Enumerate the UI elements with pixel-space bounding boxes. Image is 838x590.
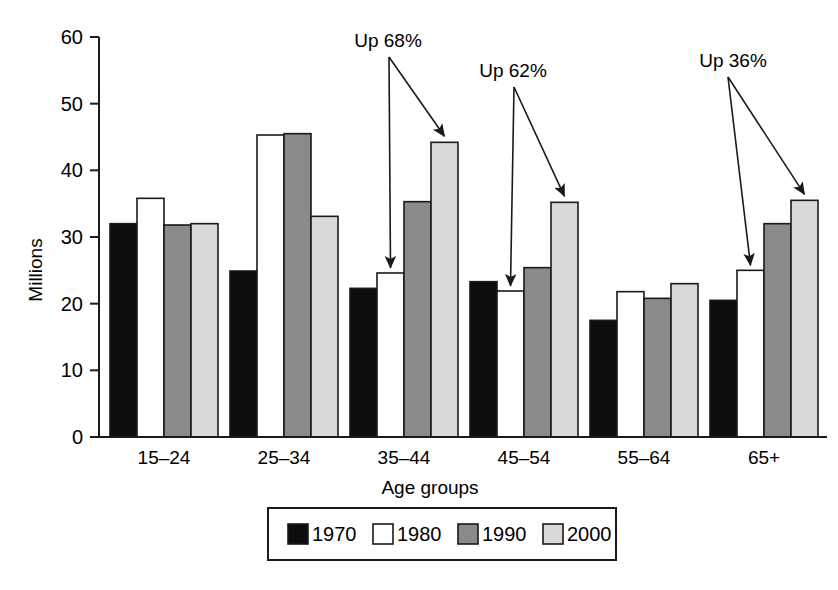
x-category-label-4: 45–54 [498, 447, 551, 468]
y-tick-label-10: 10 [61, 359, 83, 381]
bar-1990-25–34 [284, 134, 311, 437]
x-category-label-3: 35–44 [378, 447, 431, 468]
bar-2000-55–64 [671, 284, 698, 437]
bar-1980-15–24 [137, 198, 164, 437]
annotation-label-3: Up 36% [699, 50, 767, 71]
bar-1980-25–34 [257, 135, 284, 437]
y-tick-label-60: 60 [61, 26, 83, 48]
bar-chart: 0102030405060Millions15–2425–3435–4445–5… [0, 0, 838, 590]
legend-label-1990: 1990 [482, 523, 527, 545]
bar-1980-65+ [737, 270, 764, 437]
annotation-arrow-1-to [389, 57, 445, 136]
bar-2000-45–54 [551, 202, 578, 437]
y-tick-label-30: 30 [61, 226, 83, 248]
bar-1990-55–64 [644, 298, 671, 437]
annotation-label-1: Up 68% [354, 30, 422, 51]
bar-1970-65+ [710, 300, 737, 437]
annotation-arrow-2-from [511, 87, 515, 286]
bar-1970-25–34 [230, 271, 257, 437]
bar-1990-65+ [764, 224, 791, 437]
bar-2000-65+ [791, 200, 818, 437]
legend-swatch-2000 [543, 524, 563, 544]
legend-swatch-1990 [458, 524, 478, 544]
legend-label-1970: 1970 [312, 523, 357, 545]
bar-1970-45–54 [470, 282, 497, 437]
annotation-arrow-1-from [389, 57, 391, 268]
bar-1980-55–64 [617, 292, 644, 437]
annotation-label-2: Up 62% [479, 60, 547, 81]
bar-1970-35–44 [350, 288, 377, 437]
bar-1990-35–44 [404, 202, 431, 437]
x-category-label-5: 55–64 [618, 447, 671, 468]
y-tick-label-20: 20 [61, 293, 83, 315]
legend-label-1980: 1980 [397, 523, 442, 545]
x-category-label-1: 15–24 [138, 447, 191, 468]
legend-label-2000: 2000 [567, 523, 612, 545]
bar-1980-45–54 [497, 291, 524, 437]
y-tick-label-0: 0 [72, 426, 83, 448]
legend-swatch-1980 [373, 524, 393, 544]
bar-1980-35–44 [377, 273, 404, 437]
legend-swatch-1970 [288, 524, 308, 544]
bar-1990-15–24 [164, 225, 191, 437]
bar-2000-25–34 [311, 216, 338, 437]
bar-1990-45–54 [524, 268, 551, 437]
bar-1970-15–24 [110, 224, 137, 437]
y-axis-title: Millions [25, 238, 46, 301]
x-category-label-6: 65+ [748, 447, 780, 468]
chart-canvas: 0102030405060Millions15–2425–3435–4445–5… [0, 0, 838, 590]
bars-layer [110, 134, 818, 437]
y-tick-label-40: 40 [61, 159, 83, 181]
x-axis-title: Age groups [381, 477, 478, 498]
chart-legend: 1970198019902000 [268, 508, 616, 560]
bar-2000-35–44 [431, 142, 458, 437]
annotation-arrow-2-to [514, 87, 565, 196]
bar-1970-55–64 [590, 320, 617, 437]
x-category-label-2: 25–34 [258, 447, 311, 468]
bar-2000-15–24 [191, 224, 218, 437]
y-tick-label-50: 50 [61, 93, 83, 115]
